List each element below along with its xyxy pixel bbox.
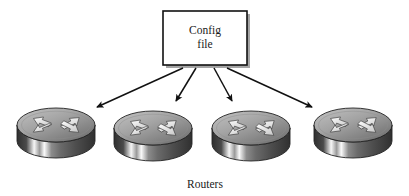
router-4 [314,108,392,158]
config-file-label-line1: Config [189,24,221,37]
config-file-label-line2: file [197,38,212,50]
diagram-canvas: Config file Routers [0,0,409,196]
router-icon [212,111,290,161]
router-icon [114,111,192,161]
router-3 [212,111,290,161]
distribution-arrows [97,68,312,107]
arrow-to-router-3 [214,68,232,101]
config-file-distribution-diagram: Config file Routers [0,0,409,196]
config-file-node: Config file [163,11,250,68]
arrow-to-router-1 [97,68,183,107]
router-1 [17,108,95,158]
routers-caption: Routers [187,178,223,190]
router-2 [114,111,192,161]
arrow-to-router-2 [176,68,196,101]
router-icon [314,108,392,158]
router-icon [17,108,95,158]
arrow-to-router-4 [227,68,312,107]
